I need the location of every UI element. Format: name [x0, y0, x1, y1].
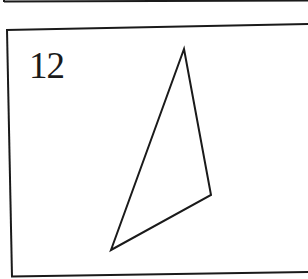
worksheet-canvas [0, 0, 308, 279]
triangle-figure [111, 49, 211, 250]
problem-box-bottom-border [11, 272, 308, 277]
problem-number: 12 [29, 46, 64, 86]
problem-box-top-border [6, 24, 308, 30]
previous-problem-box [4, 0, 308, 2]
problem-box-left-border [7, 30, 12, 277]
